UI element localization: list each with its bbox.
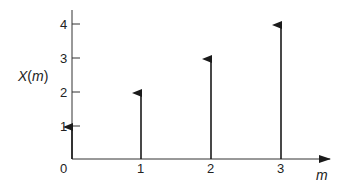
stems [72,25,281,159]
y-tick-label: 2 [60,85,67,100]
x-axis-label: m [316,167,328,183]
stem-chart: 1 2 3 4 X(m) 0 1 2 3 m [0,0,348,187]
y-ticks [72,24,80,126]
y-tick-label: 3 [60,51,67,66]
y-tick-label: 1 [60,119,67,134]
y-axis-label: X(m) [17,68,48,84]
x-tick-label: 3 [277,161,284,176]
x-tick-label: 0 [60,161,67,176]
y-tick-label: 4 [60,17,67,32]
x-tick-label: 1 [137,161,144,176]
x-tick-label: 2 [207,161,214,176]
